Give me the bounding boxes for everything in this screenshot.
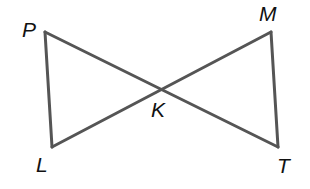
segment-ML (52, 32, 271, 147)
segment-MT (271, 32, 278, 147)
vertex-label-L: L (36, 154, 48, 175)
vertex-label-M: M (259, 3, 277, 24)
vertex-label-T: T (277, 155, 290, 176)
bowtie-triangles-diagram: P M K L T (0, 0, 310, 189)
vertex-label-P: P (22, 19, 36, 40)
segment-PL (45, 32, 52, 147)
vertex-label-K: K (151, 99, 165, 120)
